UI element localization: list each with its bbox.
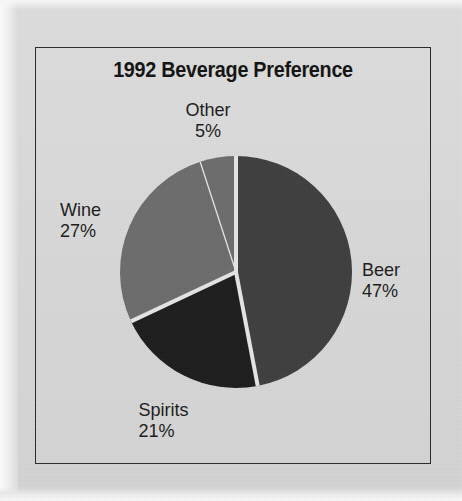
pie-label-spirits-name: Spirits bbox=[138, 399, 188, 420]
pie-label-beer: Beer 47% bbox=[362, 259, 438, 302]
pie-label-wine-name: Wine bbox=[60, 199, 101, 220]
pie-slice-beer[interactable] bbox=[236, 156, 352, 386]
pie-label-spirits-percent: 21% bbox=[138, 420, 229, 441]
pie-label-other-name: Other bbox=[185, 99, 230, 120]
pie-svg bbox=[0, 0, 462, 501]
chart-screenshot: 1992 Beverage Preference Other 5% Wine 2… bbox=[0, 0, 462, 501]
pie-label-beer-name: Beer bbox=[362, 259, 400, 280]
pie-label-other: Other 5% bbox=[178, 99, 239, 142]
pie-label-other-percent: 5% bbox=[178, 120, 239, 141]
pie-label-wine-percent: 27% bbox=[60, 220, 136, 241]
pie-label-spirits: Spirits 21% bbox=[138, 399, 229, 442]
pie-label-wine: Wine 27% bbox=[60, 199, 136, 242]
pie-chart bbox=[0, 0, 462, 501]
pie-label-beer-percent: 47% bbox=[362, 280, 438, 301]
